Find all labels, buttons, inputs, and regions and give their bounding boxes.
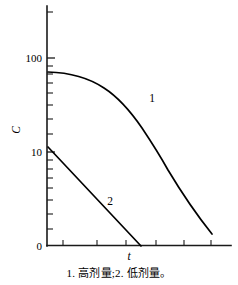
semilog-plot: 100 10 0 C t 1 2: [0, 0, 238, 285]
y-tick-label-10: 10: [31, 146, 43, 158]
figure-caption: 1. 高剂量;2. 低剂量。: [0, 264, 238, 280]
y-axis-title: C: [10, 126, 22, 134]
y-tick-label-100: 100: [26, 52, 43, 64]
x-axis-title: t: [127, 250, 131, 262]
curve-label-2: 2: [107, 195, 113, 207]
figure-container: 100 10 0 C t 1 2 1. 高剂量;2. 低剂量。: [0, 0, 238, 285]
curve-high-dose: [48, 72, 212, 234]
y-tick-label-0: 0: [37, 240, 43, 252]
curve-label-1: 1: [149, 92, 155, 104]
curve-low-dose: [48, 147, 141, 246]
y-axis-ticks: [47, 12, 55, 229]
